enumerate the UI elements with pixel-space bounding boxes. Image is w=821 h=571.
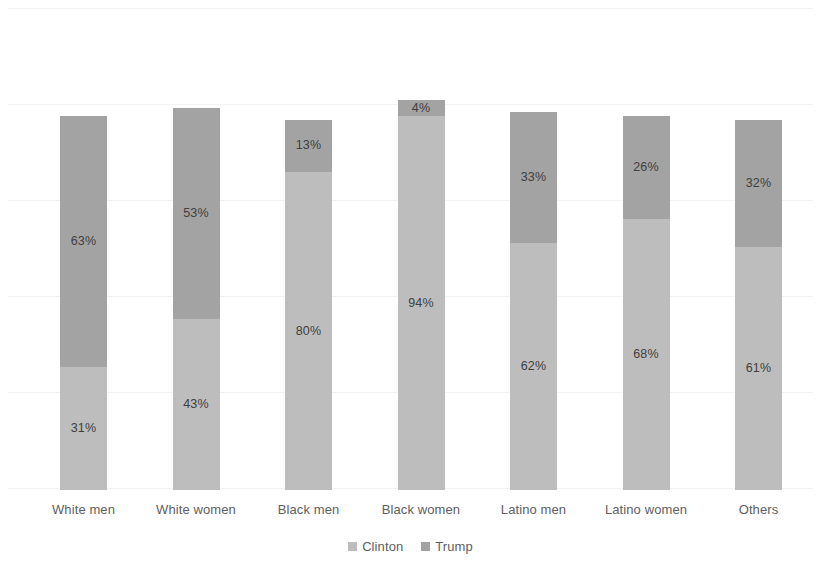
bar-group: 13%80% [285, 120, 332, 490]
bar-segment-trump[interactable]: 26% [623, 116, 670, 219]
bar-segment-value-label: 68% [633, 348, 659, 361]
bar-segment-clinton[interactable]: 43% [173, 319, 220, 490]
bar-segment-clinton[interactable]: 80% [285, 172, 332, 490]
bar-segment-value-label: 31% [71, 422, 97, 435]
gridline [8, 8, 813, 9]
bar-stack: 33%62% [510, 112, 557, 490]
bar-stack: 13%80% [285, 120, 332, 490]
category-label: Latino women [590, 502, 702, 517]
bar-segment-trump[interactable]: 53% [173, 108, 220, 319]
category-label: Latino men [478, 502, 590, 517]
legend-item[interactable]: Clinton [348, 539, 403, 554]
bar-segment-value-label: 26% [633, 161, 659, 174]
chart-legend: ClintonTrump [0, 534, 821, 558]
legend-label: Trump [435, 539, 473, 554]
bar-segment-trump[interactable]: 4% [398, 100, 445, 116]
bar-segment-value-label: 61% [746, 362, 772, 375]
bar-segment-value-label: 62% [521, 360, 547, 373]
bar-segment-value-label: 94% [408, 297, 434, 310]
bar-segment-clinton[interactable]: 31% [60, 367, 107, 490]
category-label: Black men [253, 502, 365, 517]
bar-group: 4%94% [398, 100, 445, 490]
bar-stack: 4%94% [398, 100, 445, 490]
bar-group: 63%31% [60, 116, 107, 490]
bar-segment-value-label: 53% [183, 207, 209, 220]
bar-stack: 32%61% [735, 120, 782, 490]
bar-segment-clinton[interactable]: 61% [735, 247, 782, 490]
category-label: Black women [365, 502, 477, 517]
bar-segment-value-label: 63% [71, 235, 97, 248]
bar-segment-value-label: 13% [296, 139, 322, 152]
square-marker-icon [421, 542, 430, 551]
bar-segment-value-label: 80% [296, 325, 322, 338]
category-label: Others [703, 502, 815, 517]
plot-area: 63%31%53%43%13%80%4%94%33%62%26%68%32%61… [0, 0, 821, 492]
bar-group: 53%43% [173, 108, 220, 490]
bar-segment-clinton[interactable]: 94% [398, 116, 445, 490]
bar-group: 26%68% [623, 116, 670, 490]
bar-segment-value-label: 4% [412, 102, 430, 115]
bar-segment-trump[interactable]: 63% [60, 116, 107, 367]
bar-segment-trump[interactable]: 32% [735, 120, 782, 247]
bar-segment-clinton[interactable]: 68% [623, 219, 670, 490]
bar-segment-value-label: 33% [521, 171, 547, 184]
bar-stack: 26%68% [623, 116, 670, 490]
bar-segment-value-label: 32% [746, 177, 772, 190]
category-axis: White menWhite womenBlack menBlack women… [0, 492, 821, 530]
legend-item[interactable]: Trump [421, 539, 473, 554]
bar-segment-clinton[interactable]: 62% [510, 243, 557, 490]
category-label: White women [140, 502, 252, 517]
stacked-bar-chart: 63%31%53%43%13%80%4%94%33%62%26%68%32%61… [0, 0, 821, 571]
bar-segment-value-label: 43% [183, 398, 209, 411]
bar-segment-trump[interactable]: 33% [510, 112, 557, 243]
bar-group: 32%61% [735, 120, 782, 490]
square-marker-icon [348, 542, 357, 551]
legend-label: Clinton [362, 539, 403, 554]
bar-group: 33%62% [510, 112, 557, 490]
category-label: White men [28, 502, 140, 517]
bar-stack: 53%43% [173, 108, 220, 490]
bar-stack: 63%31% [60, 116, 107, 490]
bar-segment-trump[interactable]: 13% [285, 120, 332, 172]
